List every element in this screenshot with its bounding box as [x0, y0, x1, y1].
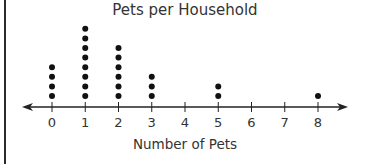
data-dot: [116, 74, 122, 80]
data-dot: [116, 55, 122, 61]
data-dots: [49, 26, 321, 99]
data-dot: [215, 93, 221, 99]
data-dot: [315, 93, 321, 99]
tick-label: 7: [281, 115, 289, 130]
data-dot: [82, 55, 88, 61]
data-dot: [49, 64, 55, 70]
tick-label: 0: [48, 115, 56, 130]
data-dot: [49, 74, 55, 80]
data-dot: [82, 45, 88, 51]
tick-label: 2: [114, 115, 122, 130]
data-dot: [49, 83, 55, 89]
tick-label: 1: [81, 115, 89, 130]
tick-label: 4: [181, 115, 189, 130]
tick-label: 3: [148, 115, 156, 130]
data-dot: [82, 83, 88, 89]
tick-label: 8: [314, 115, 322, 130]
data-dot: [49, 93, 55, 99]
data-dot: [149, 74, 155, 80]
data-dot: [82, 26, 88, 32]
data-dot: [149, 83, 155, 89]
data-dot: [82, 35, 88, 41]
data-dot: [82, 93, 88, 99]
tick-label: 6: [247, 115, 255, 130]
data-dot: [116, 83, 122, 89]
data-dot: [149, 93, 155, 99]
data-dot: [82, 64, 88, 70]
data-dot: [116, 45, 122, 51]
data-dot: [116, 93, 122, 99]
data-dot: [116, 64, 122, 70]
x-axis-label: Number of Pets: [0, 136, 365, 152]
tick-label: 5: [214, 115, 222, 130]
data-dot: [215, 83, 221, 89]
data-dot: [82, 74, 88, 80]
